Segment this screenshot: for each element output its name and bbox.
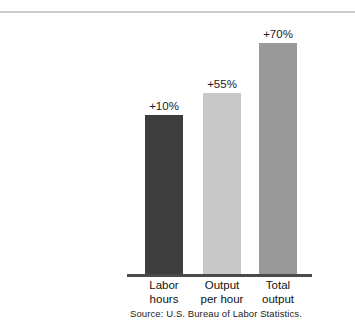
bar-group-total-output: +70% — [259, 43, 297, 274]
category-label-line: output — [245, 293, 311, 307]
bar-value-label: +10% — [149, 101, 179, 113]
category-label-line: hours — [131, 293, 197, 307]
bar-group-labor-hours: +10% — [145, 115, 183, 274]
category-label-line: Total — [245, 279, 311, 293]
bar-rect — [145, 115, 183, 274]
bar-value-label: +70% — [263, 29, 293, 41]
bar-rect — [203, 93, 241, 274]
plot-area: +10% +55% +70% — [127, 20, 312, 274]
category-axis-labels: Labor hours Output per hour Total output — [127, 279, 312, 309]
category-label-labor-hours: Labor hours — [131, 279, 197, 306]
category-label-line: Labor — [131, 279, 197, 293]
source-caption: Source: U.S. Bureau of Labor Statistics. — [130, 308, 302, 319]
x-axis-baseline — [127, 274, 312, 277]
bar-rect — [259, 43, 297, 274]
bar-group-output-per-hour: +55% — [203, 93, 241, 274]
bar-chart: +10% +55% +70% Labor hours Output per ho… — [0, 0, 355, 332]
category-label-total-output: Total output — [245, 279, 311, 306]
bar-value-label: +55% — [207, 79, 237, 91]
